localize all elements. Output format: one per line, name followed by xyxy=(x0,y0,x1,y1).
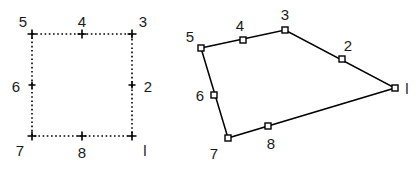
right-label-4: 4 xyxy=(236,18,244,33)
left-marker-3 xyxy=(128,30,137,39)
right-marker-7 xyxy=(225,135,231,141)
left-label-1: l xyxy=(143,143,146,158)
right-marker-4 xyxy=(240,37,246,43)
right-marker-1 xyxy=(392,85,398,91)
left-label-8: 8 xyxy=(78,145,86,160)
right-marker-8 xyxy=(265,123,271,129)
left-marker-8 xyxy=(78,132,87,141)
right-quadrilateral-outline xyxy=(201,30,395,138)
left-label-3: 3 xyxy=(139,14,147,29)
left-marker-7 xyxy=(28,132,37,141)
right-marker-2 xyxy=(339,56,345,62)
right-marker-3 xyxy=(282,27,288,33)
figure-root: 5 4 3 2 l 8 7 6 5 4 3 2 l 8 7 6 xyxy=(0,0,418,170)
left-marker-1 xyxy=(128,132,137,141)
left-label-5: 5 xyxy=(19,14,27,29)
right-label-7: 7 xyxy=(210,146,218,161)
right-label-2: 2 xyxy=(344,38,352,53)
right-marker-6 xyxy=(211,92,217,98)
left-label-7: 7 xyxy=(16,143,24,158)
right-label-6: 6 xyxy=(196,88,204,103)
left-marker-4 xyxy=(78,30,87,39)
right-label-3: 3 xyxy=(281,7,289,22)
right-marker-5 xyxy=(198,45,204,51)
right-label-8: 8 xyxy=(267,136,275,151)
left-square-outline xyxy=(32,34,132,136)
left-label-2: 2 xyxy=(144,79,152,94)
left-marker-5 xyxy=(28,30,37,39)
left-label-6: 6 xyxy=(12,79,20,94)
right-label-5: 5 xyxy=(186,29,194,44)
left-label-4: 4 xyxy=(78,14,86,29)
left-panel-group xyxy=(28,30,137,141)
left-marker-2 xyxy=(129,82,136,89)
right-label-1: l xyxy=(405,81,408,96)
right-panel-group xyxy=(198,27,398,141)
left-marker-6 xyxy=(29,82,36,89)
